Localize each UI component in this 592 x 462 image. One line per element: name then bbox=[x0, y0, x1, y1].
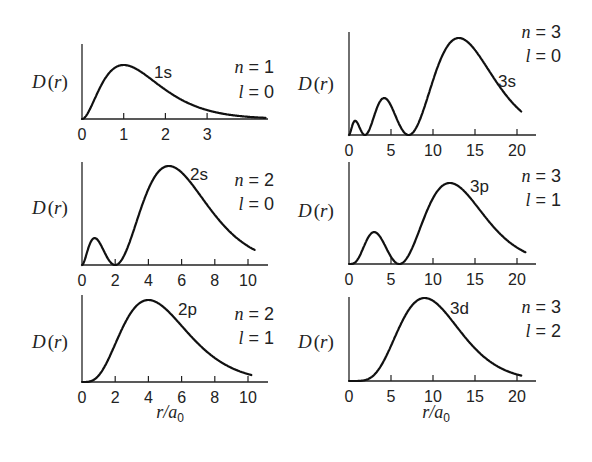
x-tick-label: 0 bbox=[78, 389, 87, 406]
panel-2s: 0246810D(r)2sn = 2l = 0 bbox=[31, 162, 274, 289]
orbital-label: 3s bbox=[498, 72, 516, 91]
l-label: l = 0 bbox=[525, 46, 561, 66]
x-tick-label: 0 bbox=[345, 388, 354, 405]
x-tick-label: 10 bbox=[424, 271, 442, 288]
n-label: n = 3 bbox=[521, 297, 561, 317]
x-tick-label: 5 bbox=[387, 142, 396, 159]
x-tick-label: 8 bbox=[210, 272, 219, 289]
x-tick-label: 6 bbox=[177, 389, 186, 406]
curve-3d bbox=[349, 298, 521, 381]
x-tick-label: 4 bbox=[144, 272, 153, 289]
curve-3p bbox=[349, 183, 525, 264]
curve-2s bbox=[82, 166, 255, 265]
x-tick-label: 6 bbox=[177, 272, 186, 289]
l-label: l = 0 bbox=[238, 194, 274, 214]
panel-2p: 0246810D(r)2pn = 2l = 1 bbox=[31, 295, 274, 406]
x-tick-label: 2 bbox=[111, 389, 120, 406]
y-axis-label: D(r) bbox=[31, 197, 68, 219]
x-tick-label: 15 bbox=[466, 271, 484, 288]
x-tick-label: 20 bbox=[508, 388, 526, 405]
n-label: n = 1 bbox=[234, 57, 274, 77]
x-tick-label: 3 bbox=[203, 126, 212, 143]
y-axis-label: D(r) bbox=[297, 200, 334, 222]
x-tick-label: 10 bbox=[239, 272, 257, 289]
panel-1s: 0123D(r)1sn = 1l = 0 bbox=[31, 44, 274, 143]
orbital-label: 3d bbox=[450, 299, 469, 318]
orbital-label: 1s bbox=[154, 63, 172, 82]
n-label: n = 3 bbox=[521, 166, 561, 186]
curve-2p bbox=[82, 300, 251, 382]
x-tick-label: 0 bbox=[78, 272, 87, 289]
y-axis-label: D(r) bbox=[297, 73, 334, 95]
x-tick-label: 20 bbox=[508, 271, 526, 288]
orbital-label: 2p bbox=[178, 300, 197, 319]
y-axis-label: D(r) bbox=[31, 71, 68, 93]
l-label: l = 2 bbox=[525, 321, 561, 341]
n-label: n = 3 bbox=[521, 22, 561, 42]
x-tick-label: 5 bbox=[387, 271, 396, 288]
x-tick-label: 15 bbox=[466, 142, 484, 159]
x-tick-label: 1 bbox=[119, 126, 128, 143]
x-tick-label: 0 bbox=[78, 126, 87, 143]
x-tick-label: 4 bbox=[144, 389, 153, 406]
x-tick-label: 2 bbox=[161, 126, 170, 143]
radial-distribution-figure: 0123D(r)1sn = 1l = 00246810D(r)2sn = 2l … bbox=[0, 0, 592, 462]
orbital-label: 3p bbox=[470, 177, 489, 196]
x-axis-label: r/a0 bbox=[422, 402, 450, 425]
x-tick-label: 10 bbox=[424, 142, 442, 159]
x-tick-label: 0 bbox=[345, 271, 354, 288]
n-label: n = 2 bbox=[234, 304, 274, 324]
n-label: n = 2 bbox=[234, 170, 274, 190]
x-tick-label: 10 bbox=[239, 389, 257, 406]
x-tick-label: 0 bbox=[345, 142, 354, 159]
orbital-label: 2s bbox=[190, 165, 208, 184]
x-tick-label: 8 bbox=[210, 389, 219, 406]
curve-3s bbox=[349, 38, 521, 135]
l-label: l = 1 bbox=[525, 190, 561, 210]
l-label: l = 1 bbox=[238, 328, 274, 348]
y-axis-label: D(r) bbox=[297, 331, 334, 353]
x-tick-label: 20 bbox=[508, 142, 526, 159]
panel-3p: 05101520D(r)3pn = 3l = 1 bbox=[297, 162, 561, 288]
panel-3d: 05101520D(r)3dn = 3l = 2 bbox=[297, 297, 561, 405]
panel-3s: 05101520D(r)3sn = 3l = 0 bbox=[297, 22, 561, 159]
x-tick-label: 5 bbox=[387, 388, 396, 405]
l-label: l = 0 bbox=[238, 82, 274, 102]
x-tick-label: 2 bbox=[111, 272, 120, 289]
x-tick-label: 15 bbox=[466, 388, 484, 405]
y-axis-label: D(r) bbox=[31, 331, 68, 353]
